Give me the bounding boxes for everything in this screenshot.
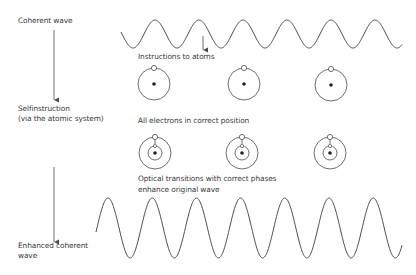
label-enhanced-wave: wave — [18, 251, 38, 260]
electron-open-circle — [327, 134, 332, 139]
enhanced-wave-curve — [96, 198, 402, 258]
atoms-before-row — [138, 65, 347, 101]
nucleus-dot — [240, 151, 244, 155]
label-enhanced-coherent: Enhanced coherent — [18, 241, 88, 250]
label-via-atomic-system: (via the atomic system) — [18, 114, 104, 123]
label-all-electrons: All electrons in correct position — [138, 116, 250, 125]
electron-open-circle — [328, 66, 333, 71]
nucleus-dot — [242, 82, 246, 86]
electron-inner — [240, 144, 243, 147]
label-optical-transitions: Optical transitions with correct phases — [138, 174, 277, 183]
label-coherent-wave: Coherent wave — [18, 16, 73, 25]
electron-open-circle — [151, 65, 156, 70]
electron-inner — [328, 144, 331, 147]
electron-open-circle — [152, 134, 157, 139]
atom — [138, 65, 170, 100]
atom — [228, 65, 260, 100]
coherent-wave-diagram: Coherent wave Selfinstruction (via the a… — [0, 0, 416, 275]
electron-open-circle — [241, 65, 246, 70]
atom-transition — [314, 134, 346, 169]
nucleus-dot — [153, 151, 157, 155]
label-enhance-original-wave: enhance original wave — [138, 185, 220, 194]
label-instructions-to-atoms: Instructions to atoms — [138, 52, 215, 61]
atoms-after-row — [139, 134, 346, 169]
label-selfinstruction: Selfinstruction — [18, 104, 70, 113]
electron-open-circle — [239, 134, 244, 139]
atom — [315, 66, 347, 101]
atom-transition — [139, 134, 171, 169]
nucleus-dot — [328, 151, 332, 155]
nucleus-dot — [329, 83, 333, 87]
coherent-wave-curve — [121, 20, 402, 48]
electron-inner — [153, 144, 156, 147]
nucleus-dot — [152, 82, 156, 86]
atom-transition — [226, 134, 258, 169]
